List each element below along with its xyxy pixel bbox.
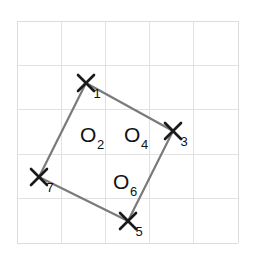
face-label-letter: O xyxy=(113,170,129,193)
face-label-subscript: 6 xyxy=(130,184,137,199)
face-label-subscript: 2 xyxy=(97,137,104,152)
quadrilateral-edge xyxy=(39,83,86,177)
vertex-label-subscript: 5 xyxy=(135,224,142,239)
quadrilateral-edges xyxy=(39,83,173,221)
vertex-label-subscript: 7 xyxy=(46,180,53,195)
figure-canvas: 1357 O2O4O6 xyxy=(0,0,254,259)
face-label-subscript: 4 xyxy=(141,137,148,152)
face-label-letter: O xyxy=(124,123,140,146)
face-label-letter: O xyxy=(80,123,96,146)
vertex-marker xyxy=(120,213,136,229)
vertex-marker xyxy=(31,169,47,185)
face-labels: O2O4O6 xyxy=(80,123,148,199)
vertex-marker xyxy=(165,123,181,139)
vertex-label-subscript: 1 xyxy=(93,86,100,101)
vertex-label-subscript: 3 xyxy=(180,134,187,149)
vertex-markers xyxy=(31,75,181,229)
quadrilateral-diagram: 1357 O2O4O6 xyxy=(0,0,254,259)
vertex-marker xyxy=(78,75,94,91)
